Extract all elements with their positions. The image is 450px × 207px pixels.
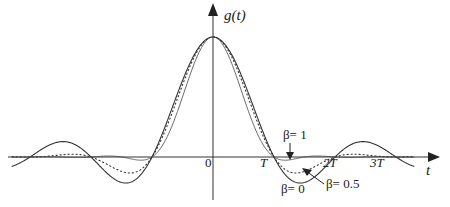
x-tick-label-1: T — [260, 155, 268, 170]
annotation-beta-0: β= 0 — [281, 181, 305, 196]
x-axis-arrow — [428, 152, 440, 162]
x-tick-label-0: 0 — [205, 155, 212, 170]
y-axis-arrow — [208, 3, 218, 16]
x-tick-label-3: 3T — [369, 155, 385, 170]
raised-cosine-plot: g(t) t 0 T 2T 3T β= 1 β= 0 β= 0.5 — [0, 0, 450, 207]
annotation-beta-1-arrowhead — [286, 152, 294, 160]
annotation-beta-05: β= 0.5 — [326, 176, 359, 191]
annotation-beta-1: β= 1 — [283, 127, 307, 142]
x-axis-label: t — [426, 162, 431, 178]
y-axis-label: g(t) — [224, 7, 246, 24]
x-tick-label-2: 2T — [323, 155, 338, 170]
